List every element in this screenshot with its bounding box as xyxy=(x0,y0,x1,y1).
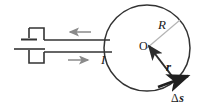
battery-top-wire xyxy=(29,28,44,40)
physics-figure-circular-loop: R O r I Δs xyxy=(0,0,206,108)
label-center-o: O xyxy=(139,39,148,53)
label-current-i: I xyxy=(100,52,106,67)
label-position-vector-r: r xyxy=(166,59,172,74)
lead-wires-group xyxy=(44,40,112,52)
battery-bottom-wire xyxy=(29,50,44,63)
position-vector-r xyxy=(149,46,175,80)
figure-canvas: R O r I Δs xyxy=(0,0,206,108)
label-delta-s: Δs xyxy=(171,91,184,105)
label-radius: R xyxy=(157,17,166,32)
current-arrows-group xyxy=(68,32,91,60)
battery-circuit-group xyxy=(14,28,45,63)
